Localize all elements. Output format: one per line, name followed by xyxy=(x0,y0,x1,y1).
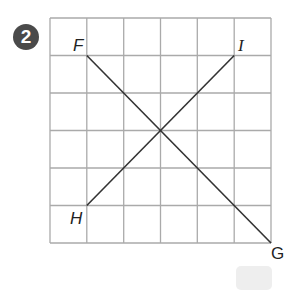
point-label-i: I xyxy=(238,36,244,56)
point-label-g: G xyxy=(271,244,284,264)
line-fg xyxy=(87,56,271,244)
answer-box[interactable] xyxy=(236,266,272,290)
point-label-f: F xyxy=(73,36,83,56)
point-label-h: H xyxy=(70,209,82,229)
grid-diagram xyxy=(0,0,293,290)
